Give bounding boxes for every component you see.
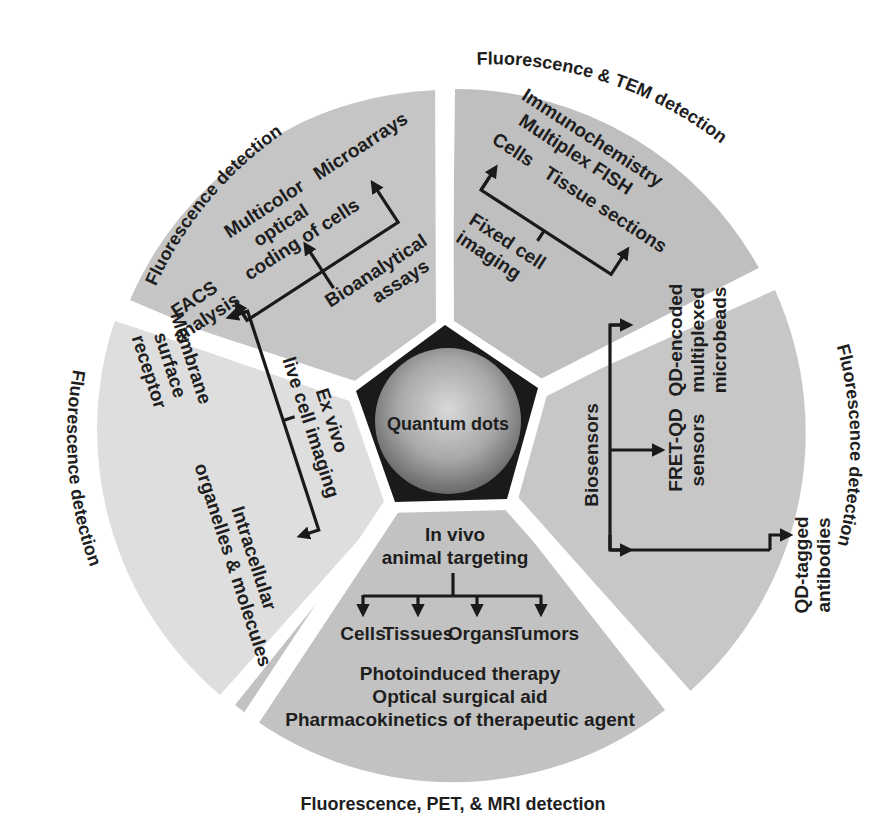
branch-qd-encoded-2: multiplexed xyxy=(687,287,708,393)
root-biosensors: Biosensors xyxy=(581,403,602,506)
branch-qd-tagged-2: antibodies xyxy=(813,517,834,612)
root-in-vivo-2: animal targeting xyxy=(382,547,529,568)
branch-tissues: Tissues xyxy=(383,623,453,644)
branch-fret-qd-2: sensors xyxy=(687,414,708,487)
quantum-dots-diagram: Quantum dots Fluorescence detection FACS… xyxy=(0,0,886,839)
branch-cells: Cells xyxy=(340,623,385,644)
extra-optical-surgical-aid: Optical surgical aid xyxy=(372,686,547,707)
branch-fret-qd: FRET-QD xyxy=(665,408,686,491)
branch-qd-encoded: QD-encoded xyxy=(665,284,686,397)
extra-pharmacokinetics: Pharmacokinetics of therapeutic agent xyxy=(285,709,635,730)
center-label: Quantum dots xyxy=(387,414,509,434)
branch-tumors: Tumors xyxy=(511,623,579,644)
detection-label-bottom: Fluorescence, PET, & MRI detection xyxy=(300,794,605,814)
root-in-vivo: In vivo xyxy=(425,524,485,545)
branch-organs: Organs xyxy=(448,623,515,644)
branch-qd-encoded-3: microbeads xyxy=(709,287,730,394)
extra-photoinduced-therapy: Photoinduced therapy xyxy=(360,663,561,684)
detection-label-right: Fluorescence detection xyxy=(833,342,866,549)
branch-qd-tagged: QD-tagged xyxy=(791,516,812,613)
